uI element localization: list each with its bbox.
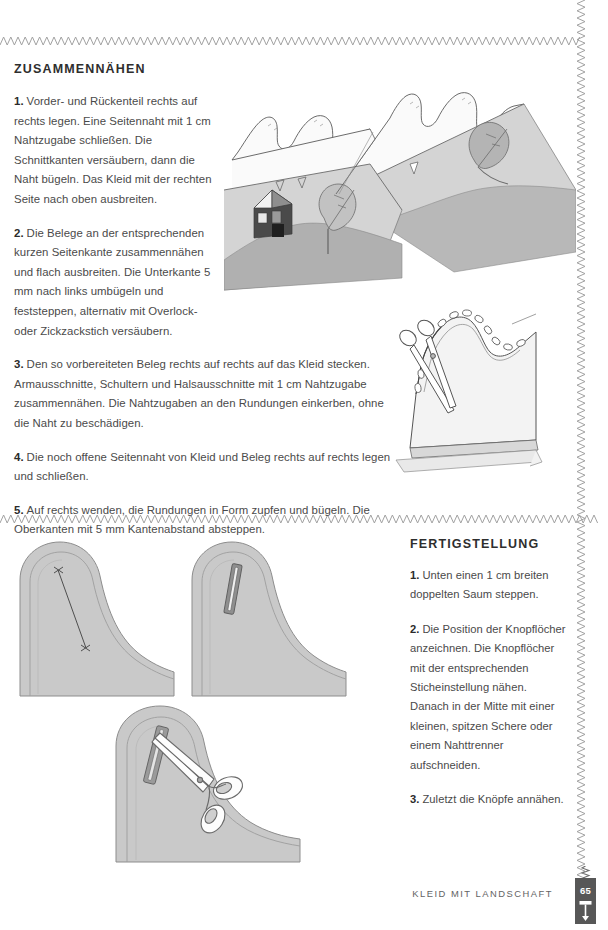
step-item: 1.Vorder- und Rückenteil rechts auf rech… [14, 92, 214, 210]
step-item: 4.Die noch offene Seitennaht von Kleid u… [14, 448, 396, 487]
step-text: Die Position der Knopflöcher anzeichnen.… [410, 623, 566, 771]
zigzag-divider-right [574, 0, 588, 880]
step-item: 1.Unten einen 1 cm breiten doppelten Sau… [410, 566, 568, 605]
section-fertigstellung: FERTIGSTELLUNG 1.Unten einen 1 cm breite… [410, 537, 570, 824]
page-footer: KLEID MIT LANDSCHAFT 65 [0, 880, 608, 930]
footer-chapter-title: KLEID MIT LANDSCHAFT [412, 888, 553, 899]
buttonhole-cutting-illustration [112, 700, 302, 865]
step-item: 2.Die Belege an der entsprechenden kurze… [14, 224, 214, 342]
step-number: 3. [14, 358, 24, 370]
step-number: 1. [14, 95, 24, 107]
step-text: Zuletzt die Knöpfe annähen. [422, 793, 563, 805]
step-text: Den so vorbereiteten Beleg rechts auf re… [14, 358, 384, 429]
step-text: Die Belege an der entsprechenden kurzen … [14, 227, 210, 337]
step-text: Die noch offene Seitennaht von Kleid und… [14, 451, 390, 483]
zigzag-divider-top [0, 34, 580, 48]
page: ZUSAMMENNÄHEN 1.Vorder- und Rückenteil r… [0, 0, 608, 930]
step-item: 3.Zuletzt die Knöpfe annähen. [410, 790, 568, 809]
section-title-fertigstellung: FERTIGSTELLUNG [410, 537, 570, 551]
step-number: 2. [14, 227, 24, 239]
step-number: 1. [410, 569, 419, 581]
dress-landscape-illustration [224, 82, 576, 314]
step-number: 2. [410, 623, 419, 635]
step-text: Vorder- und Rückenteil rechts auf rechts… [14, 95, 212, 205]
step-number: 4. [14, 451, 24, 463]
step-item: 3.Den so vorbereiteten Beleg rechts auf … [14, 355, 396, 433]
step-item: 2.Die Position der Knopflöcher anzeichne… [410, 620, 568, 775]
step-item: 5.Auf rechts wenden, die Rundungen in Fo… [14, 501, 396, 540]
buttonhole-stitched-illustration [188, 536, 348, 716]
facing-pinned-illustration [386, 300, 562, 492]
page-number-badge: 65 [571, 866, 600, 928]
page-number: 65 [571, 885, 600, 896]
section-title-zusammennaehen: ZUSAMMENNÄHEN [14, 62, 396, 76]
step-text: Unten einen 1 cm breiten doppelten Saum … [410, 569, 549, 600]
buttonhole-marking-illustration [16, 536, 176, 716]
step-number: 3. [410, 793, 419, 805]
step-text: Auf rechts wenden, die Rundungen in Form… [14, 504, 370, 536]
step-number: 5. [14, 504, 24, 516]
